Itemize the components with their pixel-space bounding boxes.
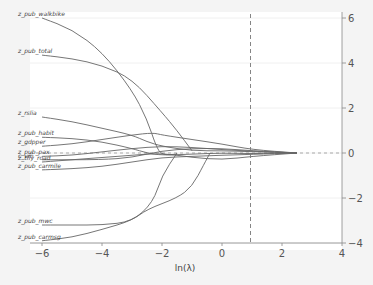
x-axis-label: ln(λ) — [175, 263, 196, 273]
x-tick-label: −6 — [35, 248, 50, 259]
lasso-coefficient-path-chart: −6−4−20246420−2−4 z_pub_walkbikez_pub_to… — [0, 0, 373, 285]
variable-label: z_pub_mwc — [17, 217, 53, 225]
variable-label: z_pub_total — [17, 47, 53, 55]
y-tick-label: 4 — [348, 58, 354, 69]
x-tick-label: 4 — [339, 248, 345, 259]
y-tick-label: 0 — [348, 148, 354, 159]
variable-label: z_pub_walkbike — [17, 10, 65, 18]
variable-label: z_tfly_road — [17, 154, 51, 162]
y-tick-label: 2 — [348, 103, 354, 114]
x-tick-label: 0 — [219, 248, 225, 259]
x-tick-label: −4 — [95, 248, 110, 259]
variable-label: z_rslia — [17, 109, 37, 117]
x-tick-label: −2 — [155, 248, 170, 259]
variable-label: z_pub_carmile — [17, 162, 61, 170]
chart-canvas: −6−4−20246420−2−4 z_pub_walkbikez_pub_to… — [0, 0, 373, 285]
variable-label: z_pub_carmsg — [17, 233, 61, 241]
y-tick-label: −2 — [348, 193, 363, 204]
variable-label: z_gdpper — [17, 138, 46, 146]
y-tick-label: −4 — [348, 238, 363, 249]
x-tick-label: 2 — [279, 248, 285, 259]
y-tick-label: 6 — [348, 13, 354, 24]
plot-area — [30, 12, 342, 250]
variable-label: z_pub_habit — [17, 129, 55, 137]
